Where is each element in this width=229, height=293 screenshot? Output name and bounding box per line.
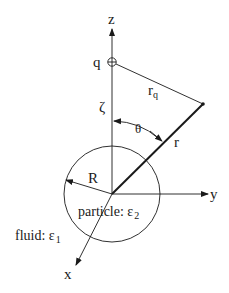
charge-circle-plus-icon — [108, 58, 116, 66]
theta-label: θ — [135, 121, 141, 136]
x-axis-label: x — [64, 266, 72, 282]
radius-label: R — [88, 170, 98, 186]
particle-label-main: particle: ε — [78, 204, 133, 219]
particle-label: particle: ε2 — [78, 204, 139, 221]
y-axis-label: y — [210, 186, 218, 202]
fluid-label-sub: 1 — [56, 234, 61, 245]
rq-label-sub: q — [153, 89, 158, 100]
fluid-label-main: fluid: ε — [15, 228, 55, 243]
fluid-label: fluid: ε1 — [15, 228, 61, 245]
r-vector-line — [112, 104, 203, 194]
rq-label: rq — [148, 82, 158, 100]
particle-label-sub: 2 — [134, 210, 139, 221]
z-axis-label: z — [108, 11, 115, 27]
rq-line — [116, 64, 203, 104]
diagram-canvas: z y x q ζ rq r θ R particle: ε2 fluid: ε… — [0, 0, 229, 293]
theta-arc-end — [150, 131, 162, 141]
zeta-label: ζ — [99, 99, 105, 115]
r-label: r — [174, 134, 179, 150]
charge-label: q — [93, 54, 101, 70]
